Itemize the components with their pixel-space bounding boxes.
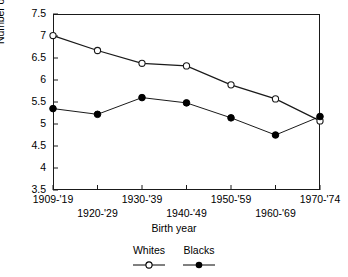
- legend-entry-blacks: Blacks: [179, 244, 219, 270]
- x-tick-label: 1940-'49: [150, 208, 224, 219]
- x-tick-label: 1920-'29: [61, 208, 135, 219]
- data-point: [183, 63, 189, 69]
- data-point: [183, 100, 190, 107]
- data-point: [50, 105, 57, 112]
- data-point: [94, 47, 100, 53]
- data-point: [50, 32, 56, 38]
- x-tick-label: 1960-'69: [239, 208, 313, 219]
- chart-canvas: [0, 0, 348, 277]
- x-tick-label: 1950-'59: [194, 194, 268, 205]
- series-whites: [50, 32, 323, 124]
- chart-figure: Number of correct items 3.544.555.566.57…: [0, 0, 348, 277]
- data-point: [317, 113, 324, 120]
- data-point: [228, 115, 235, 122]
- legend-label: Whites: [133, 244, 165, 256]
- x-axis-title: Birth year: [0, 222, 348, 234]
- legend-marker-filled-circle: [179, 260, 219, 270]
- data-point: [139, 94, 146, 101]
- data-point: [272, 132, 279, 139]
- legend-label: Blacks: [184, 244, 215, 256]
- x-tick-label: 1970-'74: [283, 194, 348, 205]
- data-point: [94, 111, 101, 118]
- data-point: [139, 60, 145, 66]
- series-blacks: [50, 94, 324, 138]
- x-tick-label: 1909-'19: [16, 194, 90, 205]
- data-point: [272, 96, 278, 102]
- legend-marker-open-circle: [129, 260, 169, 270]
- data-point: [228, 82, 234, 88]
- x-tick-label: 1930-'39: [105, 194, 179, 205]
- legend-entry-whites: Whites: [129, 244, 169, 270]
- chart-legend: WhitesBlacks: [0, 244, 348, 270]
